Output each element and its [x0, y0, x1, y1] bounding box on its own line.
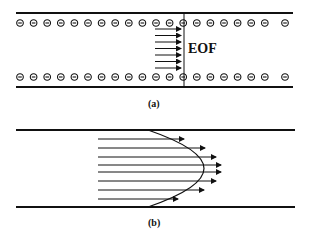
- bottom-charges: [17, 74, 289, 81]
- diagram-canvas: [0, 0, 309, 235]
- figure-a: [16, 13, 293, 87]
- parabolic-flow-arrows: [98, 139, 221, 199]
- plug-flow-arrows: [155, 29, 181, 68]
- caption-b: (b): [148, 217, 160, 228]
- figure-b: [16, 130, 295, 207]
- caption-a: (a): [148, 98, 160, 109]
- top-charges: [17, 20, 289, 27]
- eof-label: EOF: [188, 41, 217, 57]
- parabolic-profile: [148, 130, 204, 207]
